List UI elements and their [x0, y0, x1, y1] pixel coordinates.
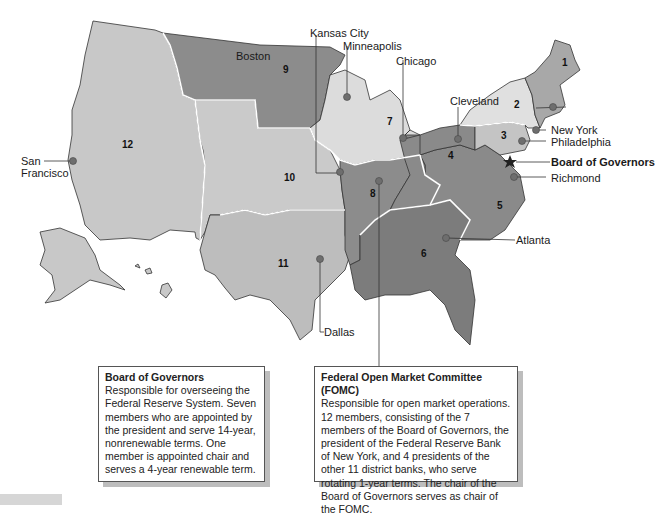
- board-box-title: Board of Governors: [105, 371, 258, 384]
- district-number-6: 6: [421, 248, 427, 259]
- marker-new-york[interactable]: [533, 127, 540, 134]
- district-11-region: [200, 210, 350, 340]
- board-box-body: Responsible for overseeing the Federal R…: [105, 384, 258, 476]
- district-number-4: 4: [448, 150, 454, 161]
- marker-boston[interactable]: [550, 104, 557, 111]
- label-atlanta: Atlanta: [516, 234, 550, 246]
- marker-kansas-city[interactable]: [337, 169, 344, 176]
- label-philadelphia: Philadelphia: [551, 136, 611, 148]
- district-number-7: 7: [387, 116, 393, 127]
- district-number-5: 5: [497, 200, 503, 211]
- board-of-governors-box: Board of Governors Responsible for overs…: [98, 366, 265, 482]
- marker-st-louis[interactable]: [376, 178, 383, 185]
- marker-minneapolis[interactable]: [344, 94, 351, 101]
- district-number-8: 8: [370, 188, 376, 199]
- label-san-francisco-2: Francisco: [21, 167, 69, 179]
- marker-chicago[interactable]: [400, 135, 407, 142]
- label-san-francisco-1: San: [21, 155, 41, 167]
- marker-richmond[interactable]: [511, 174, 518, 181]
- label-dallas: Dallas: [324, 326, 355, 338]
- label-boston: Boston: [236, 50, 270, 62]
- label-richmond: Richmond: [551, 172, 601, 184]
- fomc-box: Federal Open Market Committee (FOMC) Res…: [314, 366, 518, 482]
- fomc-box-title: Federal Open Market Committee (FOMC): [321, 371, 511, 397]
- label-board-of-governors: Board of Governors: [551, 156, 655, 168]
- district-number-10: 10: [284, 172, 295, 183]
- district-number-2: 2: [514, 99, 520, 110]
- figure-tab: [0, 494, 62, 505]
- district-number-9: 9: [283, 64, 289, 75]
- hawaii: [135, 264, 172, 298]
- district-number-1: 1: [562, 57, 568, 68]
- label-chicago: Chicago: [396, 55, 436, 67]
- marker-san-francisco[interactable]: [70, 158, 77, 165]
- district-number-3: 3: [501, 130, 507, 141]
- label-new-york: New York: [551, 124, 597, 136]
- district-number-11: 11: [278, 258, 289, 269]
- label-cleveland: Cleveland: [450, 95, 499, 107]
- marker-philadelphia[interactable]: [519, 138, 526, 145]
- marker-dallas[interactable]: [317, 256, 324, 263]
- label-minneapolis: Minneapolis: [343, 40, 402, 52]
- marker-atlanta[interactable]: [443, 235, 450, 242]
- fomc-box-body: Responsible for open market operations. …: [321, 397, 511, 516]
- district-number-12: 12: [122, 139, 133, 150]
- marker-cleveland[interactable]: [455, 136, 462, 143]
- label-kansas-city: Kansas City: [310, 27, 369, 39]
